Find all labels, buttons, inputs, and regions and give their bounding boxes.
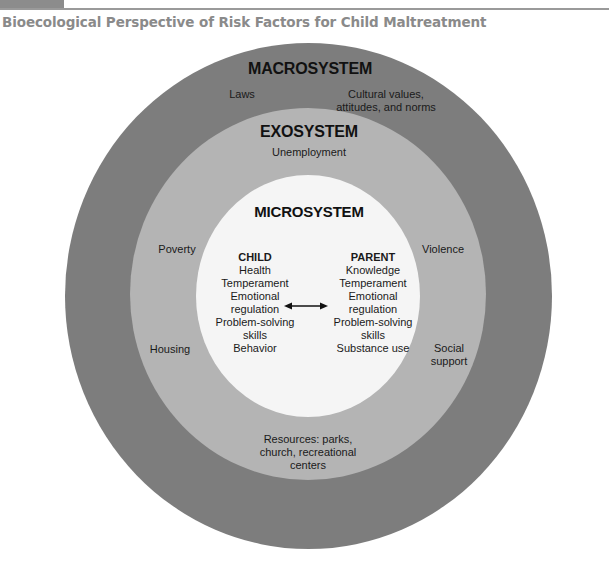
child-factor: skills <box>200 329 310 342</box>
factor-resources-line3: centers <box>250 459 366 472</box>
double-headed-arrow-icon <box>284 297 328 307</box>
parent-factors: PARENT Knowledge Temperament Emotional r… <box>328 251 418 355</box>
factor-social-support: Social support <box>424 342 474 368</box>
factor-unemployment: Unemployment <box>258 146 360 159</box>
figure-title: Bioecological Perspective of Risk Factor… <box>2 14 486 30</box>
parent-factor: Knowledge <box>328 264 418 277</box>
child-factor: Health <box>200 264 310 277</box>
child-factor: Temperament <box>200 277 310 290</box>
factor-cultural-values-line2: attitudes, and norms <box>326 101 446 114</box>
parent-factor: regulation <box>328 303 418 316</box>
factor-laws: Laws <box>222 88 262 101</box>
parent-factor: Substance use <box>328 342 418 355</box>
factor-cultural-values-line1: Cultural values, <box>326 88 446 101</box>
child-factor: Problem-solving <box>200 316 310 329</box>
microsystem-heading: MICROSYSTEM <box>242 203 376 220</box>
factor-housing: Housing <box>145 343 195 356</box>
header-rule <box>0 8 609 10</box>
macrosystem-heading: MACROSYSTEM <box>248 60 370 78</box>
parent-factor: skills <box>328 329 418 342</box>
parent-factor: Temperament <box>328 277 418 290</box>
factor-poverty: Poverty <box>152 243 202 256</box>
exosystem-heading: EXOSYSTEM <box>258 123 360 141</box>
factor-social-support-line1: Social <box>424 342 474 355</box>
parent-heading: PARENT <box>328 251 418 264</box>
factor-violence: Violence <box>416 243 470 256</box>
factor-resources: Resources: parks, church, recreational c… <box>250 433 366 472</box>
factor-social-support-line2: support <box>424 355 474 368</box>
factor-cultural-values: Cultural values, attitudes, and norms <box>326 88 446 114</box>
header-tab-block <box>0 0 64 8</box>
parent-factor: Emotional <box>328 290 418 303</box>
child-factor: Behavior <box>200 342 310 355</box>
child-heading: CHILD <box>200 251 310 264</box>
factor-resources-line1: Resources: parks, <box>250 433 366 446</box>
factor-resources-line2: church, recreational <box>250 446 366 459</box>
parent-factor: Problem-solving <box>328 316 418 329</box>
